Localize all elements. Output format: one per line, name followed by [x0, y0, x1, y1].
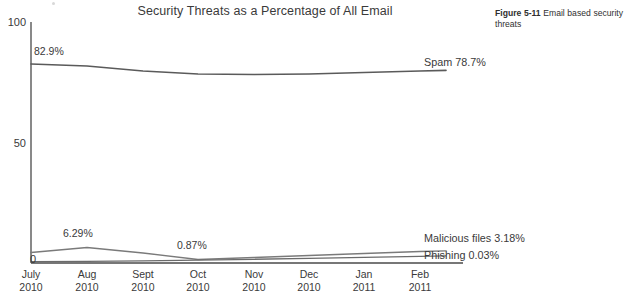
y-tick-label-0: 0 — [12, 253, 36, 265]
annotation-malicious-files-oct: 0.87% — [177, 239, 207, 251]
x-tick-month: Oct — [170, 268, 226, 281]
x-tick-year: 2010 — [226, 281, 282, 294]
annotation-spam-start: 82.9% — [34, 45, 64, 57]
x-tick-label-dec-2010: Dec 2010 — [281, 268, 337, 293]
x-tick-year: 2010 — [170, 281, 226, 294]
x-tick-label-sept-2010: Sept 2010 — [115, 268, 171, 293]
x-tick-year: 2010 — [281, 281, 337, 294]
x-tick-label-jan-2011: Jan 2011 — [336, 268, 392, 293]
x-tick-label-feb-2011: Feb 2011 — [392, 268, 448, 293]
x-tick-year: 2011 — [392, 281, 448, 294]
figure-container: Security Threats as a Percentage of All … — [0, 0, 630, 307]
x-tick-label-july-2010: July 2010 — [3, 268, 59, 293]
y-tick-label-100: 100 — [2, 16, 26, 28]
x-tick-year: 2010 — [115, 281, 171, 294]
series-line-malicious-files — [31, 248, 446, 260]
series-label-malicious-files: Malicious files 3.18% — [424, 232, 525, 244]
y-tick-label-50: 50 — [2, 137, 26, 149]
x-tick-month: Sept — [115, 268, 171, 281]
x-tick-month: Feb — [392, 268, 448, 281]
x-tick-label-aug-2010: Aug 2010 — [59, 268, 115, 293]
chart-canvas — [0, 0, 630, 307]
series-label-phishing: Phishing 0.03% — [424, 249, 499, 261]
series-line-phishing — [31, 256, 446, 262]
x-tick-year: 2011 — [336, 281, 392, 294]
plot-area — [0, 0, 630, 307]
x-tick-month: Jan — [336, 268, 392, 281]
series-label-spam: Spam 78.7% — [424, 56, 486, 68]
series-line-spam — [31, 64, 446, 75]
x-tick-month: July — [3, 268, 59, 281]
x-tick-year: 2010 — [3, 281, 59, 294]
x-tick-label-nov-2010: Nov 2010 — [226, 268, 282, 293]
annotation-malicious-files-peak: 6.29% — [63, 227, 93, 239]
x-tick-label-oct-2010: Oct 2010 — [170, 268, 226, 293]
x-tick-month: Dec — [281, 268, 337, 281]
x-tick-month: Aug — [59, 268, 115, 281]
x-tick-year: 2010 — [59, 281, 115, 294]
x-tick-month: Nov — [226, 268, 282, 281]
